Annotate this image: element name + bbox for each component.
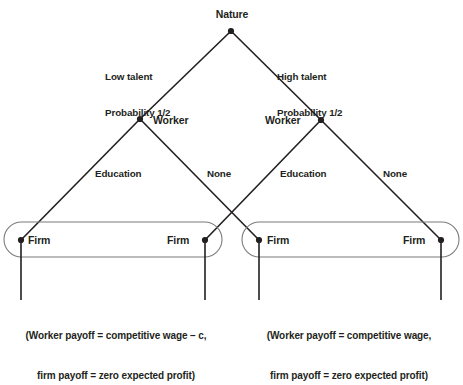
node-firm-2[interactable] (202, 237, 208, 243)
branch-label-low-talent-line2: Probability 1/2 (105, 107, 170, 119)
branch-label-high-talent-line1: High talent (277, 71, 342, 83)
payoff-caption-left-line1: (Worker payoff = competitive wage – c, (2, 329, 230, 342)
branch-label-none-right: None (383, 168, 407, 180)
node-label-firm-2: Firm (167, 234, 189, 247)
branch-label-high-talent-line2: Probability 1/2 (277, 107, 342, 119)
payoff-caption-right: (Worker payoff = competitive wage, firm … (238, 303, 460, 385)
branch-label-high-talent: High talent Probability 1/2 (277, 47, 342, 143)
node-label-firm-4: Firm (403, 234, 425, 247)
branch-label-none-left: None (207, 168, 231, 180)
node-label-firm-3: Firm (267, 234, 289, 247)
payoff-caption-right-line1: (Worker payoff = competitive wage, (238, 329, 460, 342)
payoff-caption-left: (Worker payoff = competitive wage – c, f… (2, 303, 230, 385)
node-firm-3[interactable] (256, 237, 262, 243)
branch-label-education-left: Education (95, 168, 141, 180)
node-nature[interactable] (228, 28, 234, 34)
branch-label-low-talent-line1: Low talent (105, 71, 170, 83)
payoff-caption-left-line2: firm payoff = zero expected profit) (2, 369, 230, 382)
node-label-nature: Nature (204, 8, 260, 21)
payoff-caption-right-line2: firm payoff = zero expected profit) (238, 369, 460, 382)
branch-label-education-right: Education (280, 168, 326, 180)
node-firm-1[interactable] (18, 237, 24, 243)
node-label-firm-1: Firm (28, 234, 50, 247)
branch-label-low-talent: Low talent Probability 1/2 (105, 47, 170, 143)
node-firm-4[interactable] (438, 237, 444, 243)
